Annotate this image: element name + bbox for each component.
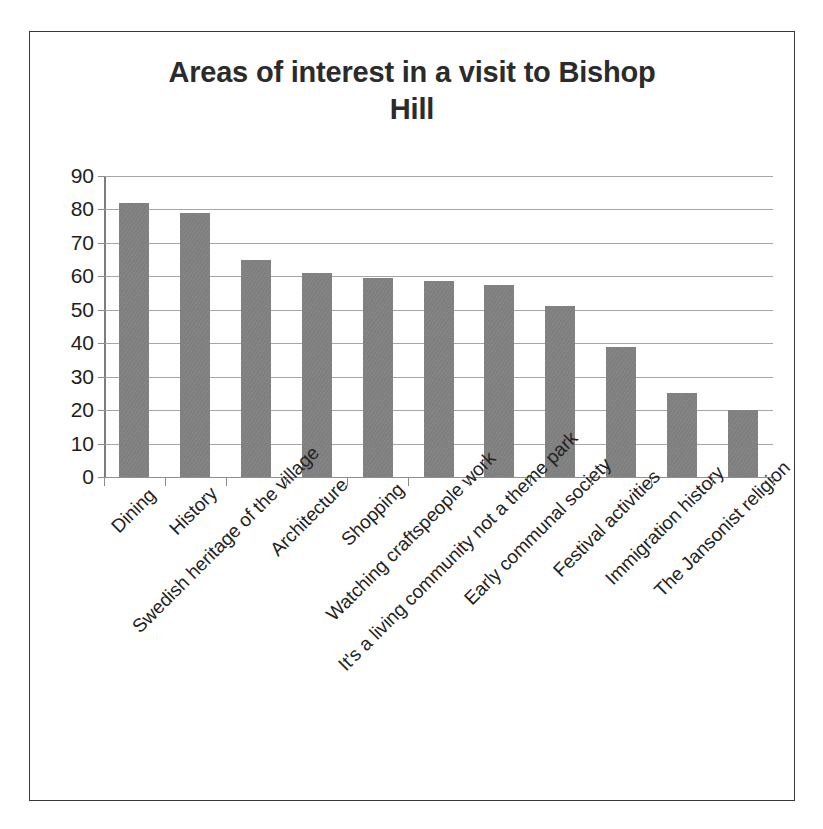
x-tick-mark-3 [286,478,287,486]
plot-area [104,176,773,477]
chart-title-line-1: Areas of interest in a visit to Bishop [30,54,794,91]
y-tick-label-40: 40 [48,331,94,355]
bar [241,260,271,477]
x-tick-mark-1 [165,478,166,486]
y-tick-mark-60 [98,276,105,277]
y-tick-label-60: 60 [48,264,94,288]
x-category-label: Festival activities [549,466,665,582]
y-tick-mark-30 [98,377,105,378]
gridline-90 [104,176,773,177]
y-tick-label-50: 50 [48,297,94,321]
y-tick-label-30: 30 [48,364,94,388]
y-tick-mark-50 [98,310,105,311]
gridline-0 [104,477,773,478]
bar [667,393,697,477]
bar [180,213,210,477]
x-tick-mark-7 [530,478,531,486]
y-tick-label-90: 90 [48,164,94,188]
x-tick-mark-8 [591,478,592,486]
bar [424,281,454,477]
x-tick-mark-6 [469,478,470,486]
x-category-label: History [165,483,222,540]
bar [119,203,149,477]
y-tick-label-80: 80 [48,197,94,221]
y-tick-mark-90 [98,176,105,177]
y-tick-label-0: 0 [48,465,94,489]
x-tick-mark-11 [773,478,774,486]
x-tick-mark-0 [104,478,105,486]
x-tick-mark-9 [651,478,652,486]
x-tick-mark-10 [712,478,713,486]
y-tick-label-20: 20 [48,398,94,422]
y-tick-mark-10 [98,444,105,445]
x-tick-mark-5 [408,478,409,486]
y-tick-mark-40 [98,343,105,344]
bar [363,278,393,477]
chart-title: Areas of interest in a visit to Bishop H… [30,54,794,128]
x-axis-category-labels: DiningHistorySwedish heritage of the vil… [104,486,784,776]
bar [728,410,758,477]
y-tick-label-70: 70 [48,230,94,254]
chart-title-line-2: Hill [30,91,794,128]
x-tick-mark-4 [347,478,348,486]
chart-frame: Areas of interest in a visit to Bishop H… [29,31,795,801]
y-axis-tick-labels: 9080706050403020100 [38,176,94,477]
bar [484,285,514,477]
bar [606,347,636,477]
y-tick-mark-70 [98,243,105,244]
y-tick-mark-80 [98,209,105,210]
gridline-80 [104,209,773,210]
y-tick-mark-20 [98,410,105,411]
y-tick-label-10: 10 [48,431,94,455]
x-category-label: Dining [107,484,160,537]
x-tick-mark-2 [226,478,227,486]
